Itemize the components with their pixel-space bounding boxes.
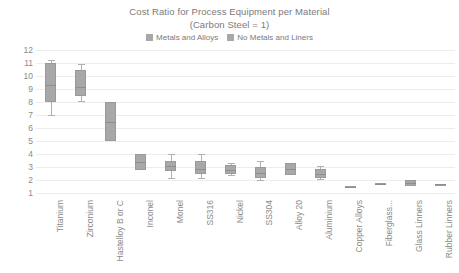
- median-line: [435, 184, 446, 185]
- legend-swatch-icon: [146, 34, 153, 41]
- y-axis-tick-label: 9: [0, 85, 33, 94]
- x-axis-category-label: Monel: [175, 200, 185, 223]
- median-line: [375, 184, 386, 185]
- box-plot-item[interactable]: [126, 50, 156, 200]
- box-plot-item[interactable]: [395, 50, 425, 200]
- x-axis-category-label: Copper Alloys: [354, 200, 364, 252]
- chart-title: Cost Ratio for Process Equipment per Mat…: [0, 6, 459, 31]
- x-axis-category-label: Rubber Linners: [444, 200, 454, 258]
- x-axis-category-label: Inconel: [145, 200, 155, 227]
- median-line: [45, 85, 56, 86]
- box-plot-item[interactable]: [216, 50, 246, 200]
- y-axis-tick-label: 7: [0, 111, 33, 120]
- median-line: [255, 173, 266, 174]
- chart-subtitle: (Carbon Steel = 1): [0, 19, 459, 32]
- whisker-cap-lower: [257, 180, 264, 181]
- box-plot-item[interactable]: [36, 50, 66, 200]
- whisker-cap-upper: [257, 161, 264, 162]
- y-axis-tick-label: 11: [0, 59, 33, 68]
- whisker-cap-upper: [168, 154, 175, 155]
- box-plot-item[interactable]: [66, 50, 96, 200]
- box-plot-chart: Cost Ratio for Process Equipment per Mat…: [0, 0, 459, 273]
- x-axis-category-label: Aluminium: [324, 200, 334, 240]
- box-plot-item[interactable]: [186, 50, 216, 200]
- whisker-cap-upper: [48, 60, 55, 61]
- y-axis-tick-labels: 121110987654321: [0, 50, 33, 200]
- box-plot-item[interactable]: [156, 50, 186, 200]
- x-axis-category-label: Zirconium: [85, 200, 95, 237]
- median-line: [225, 170, 236, 171]
- median-line: [165, 166, 176, 167]
- whisker-cap-upper: [317, 166, 324, 167]
- y-axis-tick-label: 1: [0, 189, 33, 198]
- x-axis-category-labels: TitaniumZirconiumHastelloy B or CInconel…: [36, 200, 455, 273]
- box-series-layer: [36, 50, 455, 200]
- median-line: [285, 169, 296, 170]
- plot-area: [36, 50, 455, 200]
- x-axis-category-label: SS316: [205, 200, 215, 226]
- whisker-cap-upper: [198, 154, 205, 155]
- legend-entry-0[interactable]: Metals and Alloys: [146, 33, 218, 42]
- y-axis-tick-label: 2: [0, 176, 33, 185]
- whisker-lower: [51, 102, 52, 115]
- y-axis-tick-label: 5: [0, 137, 33, 146]
- y-axis-tick-label: 4: [0, 150, 33, 159]
- whisker-cap-lower: [228, 175, 235, 176]
- legend-label: Metals and Alloys: [156, 33, 218, 42]
- legend-entry-1[interactable]: No Metals and Liners: [227, 33, 313, 42]
- median-line: [135, 162, 146, 163]
- x-axis-category-label: Fiberglass...: [384, 200, 394, 246]
- median-line: [105, 122, 116, 123]
- x-axis-category-label: SS304: [264, 200, 274, 226]
- whisker-cap-lower: [168, 178, 175, 179]
- median-line: [345, 187, 356, 188]
- whisker-cap-lower: [78, 101, 85, 102]
- x-axis-category-label: Glass Linners: [414, 200, 424, 252]
- box-plot-item[interactable]: [305, 50, 335, 200]
- median-line: [315, 174, 326, 175]
- x-axis-category-label: Hastelloy B or C: [115, 200, 125, 261]
- legend-swatch-icon: [227, 34, 234, 41]
- y-axis-tick-label: 6: [0, 124, 33, 133]
- whisker-cap-lower: [198, 178, 205, 179]
- chart-legend: Metals and AlloysNo Metals and Liners: [0, 33, 459, 42]
- y-axis-tick-label: 12: [0, 46, 33, 55]
- legend-label: No Metals and Liners: [237, 33, 313, 42]
- x-axis-category-label: Alloy 20: [294, 200, 304, 230]
- whisker-cap-lower: [48, 115, 55, 116]
- box-plot-item[interactable]: [246, 50, 276, 200]
- chart-title-line1: Cost Ratio for Process Equipment per Mat…: [129, 6, 329, 17]
- x-axis-category-label: Titanium: [55, 200, 65, 232]
- whisker-cap-upper: [78, 64, 85, 65]
- box-plot-item[interactable]: [275, 50, 305, 200]
- box-plot-item[interactable]: [335, 50, 365, 200]
- box-plot-item[interactable]: [425, 50, 455, 200]
- y-axis-tick-label: 10: [0, 72, 33, 81]
- box-rect: [195, 161, 206, 174]
- x-axis-category-label: Nickel: [235, 200, 245, 223]
- median-line: [405, 183, 416, 184]
- median-line: [75, 87, 86, 88]
- box-rect: [75, 70, 86, 96]
- y-axis-tick-label: 8: [0, 98, 33, 107]
- box-plot-item[interactable]: [365, 50, 395, 200]
- box-plot-item[interactable]: [96, 50, 126, 200]
- y-axis-tick-label: 3: [0, 163, 33, 172]
- whisker-cap-lower: [317, 179, 324, 180]
- box-rect: [45, 63, 56, 102]
- median-line: [195, 169, 206, 170]
